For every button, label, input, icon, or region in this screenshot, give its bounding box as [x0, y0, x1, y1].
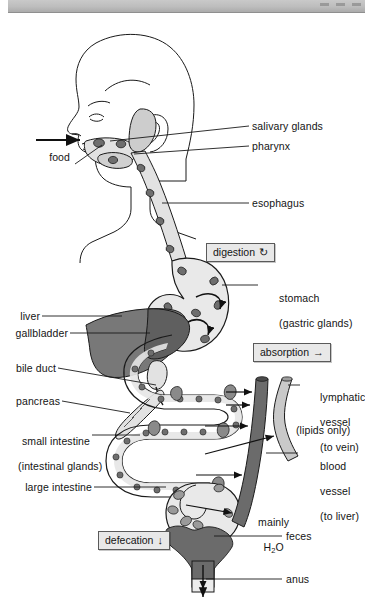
arrow-right-icon: →: [313, 347, 324, 358]
label-small-intestine: small intestine (intestinal glands): [0, 422, 90, 485]
close-button[interactable]: [352, 3, 361, 6]
label-small-intestine-line2: (intestinal glands): [18, 460, 102, 472]
label-water-h: H: [263, 541, 271, 553]
label-mainly-water: mainly H2O: [240, 503, 289, 568]
process-box-digestion[interactable]: digestion ↻: [206, 243, 275, 262]
label-blood-line3: (to liver): [320, 510, 359, 522]
label-stomach-line2: (gastric glands): [279, 317, 352, 329]
arrow-down-icon: ↓: [157, 535, 163, 546]
esophagus: [131, 151, 186, 261]
label-mainly-line1: mainly: [258, 516, 289, 528]
minimize-button[interactable]: [320, 3, 329, 6]
label-blood-line2: vessel: [320, 485, 350, 497]
label-lipids-only: (lipids only): [296, 424, 350, 437]
eyebrow: [88, 101, 110, 106]
label-blood-line1: blood: [320, 460, 346, 472]
label-water-o: O: [275, 541, 283, 553]
label-stomach: stomach (gastric glands): [261, 279, 353, 342]
label-food: food: [8, 151, 70, 164]
lymphatic-vessel: [273, 377, 298, 461]
window-controls: [320, 3, 361, 6]
process-box-absorption[interactable]: absorption →: [253, 343, 331, 362]
diagram-canvas: food salivary glands pharynx esophagus s…: [0, 13, 365, 598]
label-pharynx: pharynx: [252, 140, 290, 153]
defecation-label: defecation: [105, 534, 153, 546]
label-lymphatic-line1: lymphatic: [320, 391, 365, 403]
window-titlebar: [8, 0, 365, 13]
hairline: [105, 80, 150, 91]
process-box-defecation[interactable]: defecation ↓: [98, 531, 170, 550]
label-liver: liver: [0, 310, 40, 323]
label-large-intestine: large intestine: [0, 481, 92, 494]
gallbladder: [147, 361, 167, 390]
pharynx: [129, 109, 156, 152]
label-pancreas: pancreas: [0, 395, 60, 408]
label-blood-vessel: blood vessel (to liver): [302, 447, 359, 535]
digestion-label: digestion: [213, 246, 255, 258]
eye: [89, 114, 104, 121]
label-water-sub: 2: [271, 546, 275, 555]
circular-arrow-icon: ↻: [259, 247, 268, 258]
absorption-label: absorption: [260, 346, 309, 358]
digestive-system-screenshot: food salivary glands pharynx esophagus s…: [0, 0, 365, 598]
maximize-button[interactable]: [336, 3, 345, 6]
label-water-formula: H2O: [263, 541, 283, 553]
label-feces: feces: [286, 530, 312, 543]
label-bile-duct: bile duct: [0, 362, 56, 375]
label-stomach-line1: stomach: [279, 292, 319, 304]
label-esophagus: esophagus: [252, 197, 304, 210]
label-anus: anus: [286, 573, 309, 586]
label-gallbladder: gallbladder: [0, 327, 68, 340]
label-small-intestine-line1: small intestine: [22, 435, 90, 447]
label-salivary-glands: salivary glands: [252, 120, 323, 133]
small-intestine: [106, 335, 242, 497]
